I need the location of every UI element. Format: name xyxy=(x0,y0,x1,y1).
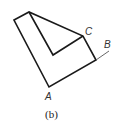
label-b: B xyxy=(104,39,111,50)
solid-figure xyxy=(14,12,96,87)
inner-edge xyxy=(29,12,83,55)
label-a: A xyxy=(44,91,52,102)
outer-outline xyxy=(14,12,96,87)
diagram-canvas: C B A (b) xyxy=(0,0,128,126)
figure-caption: (b) xyxy=(45,108,58,121)
label-c: C xyxy=(85,26,93,37)
extension-line-b xyxy=(96,51,109,60)
